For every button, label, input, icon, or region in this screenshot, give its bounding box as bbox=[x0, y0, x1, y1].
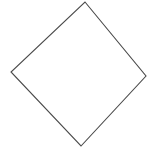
diamond-shape-svg bbox=[0, 0, 157, 152]
drawing-canvas bbox=[0, 0, 157, 152]
canvas-background bbox=[0, 0, 157, 152]
